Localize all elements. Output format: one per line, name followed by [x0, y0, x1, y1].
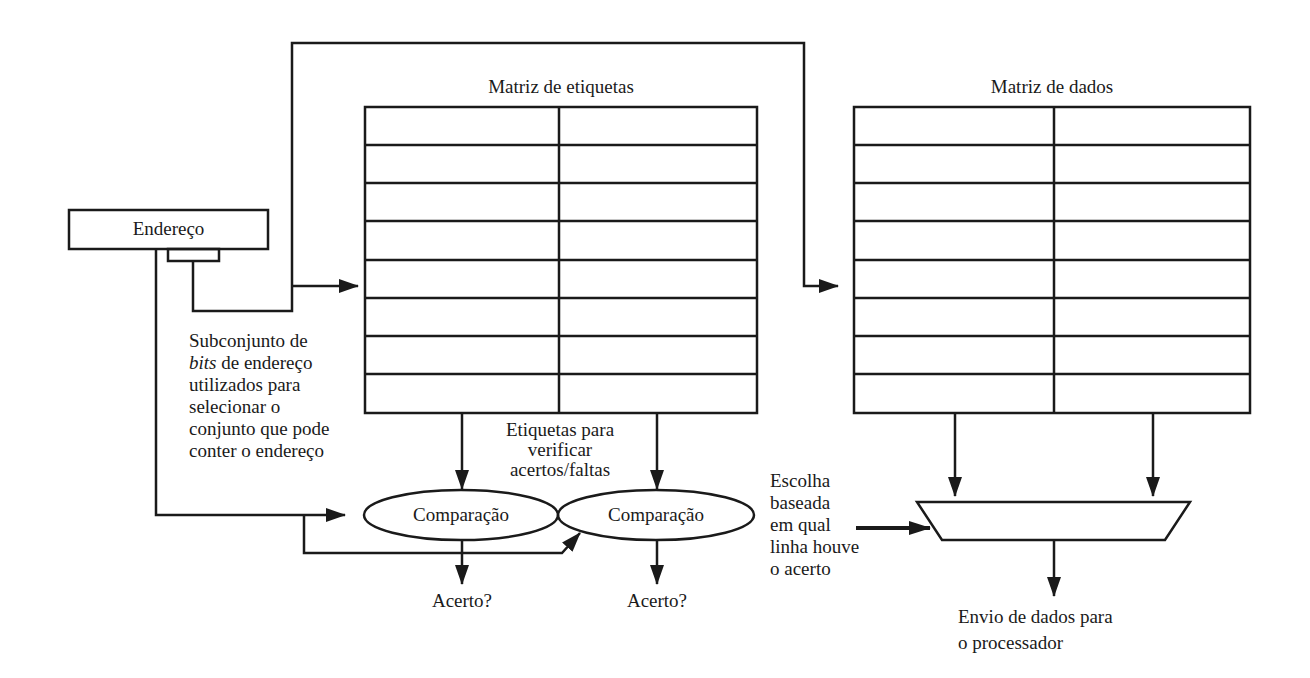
comparator-1-label: Comparação	[558, 504, 754, 526]
data-array	[854, 107, 1250, 413]
subset-note-line: conter o endereço	[189, 440, 329, 462]
mux-note-line: Escolha	[770, 470, 859, 492]
tag-array-title: Matriz de etiquetas	[365, 76, 757, 98]
address-label: Endereço	[69, 218, 268, 240]
comparator-0-label: Comparação	[364, 504, 558, 526]
subset-note-line: bits de endereço	[189, 352, 329, 374]
bits-italic: bits	[189, 352, 216, 373]
tag-array	[365, 107, 757, 413]
tags-note-line: verificar	[480, 440, 640, 460]
multiplexer	[917, 502, 1190, 540]
output-note-line: Envio de dados para	[958, 604, 1113, 630]
index-field-tab	[168, 249, 219, 261]
subset-note: Subconjunto de bits de endereço utilizad…	[189, 330, 329, 462]
hit0-label: Acerto?	[402, 590, 522, 612]
subset-note-line: Subconjunto de	[189, 330, 329, 352]
mux-note-line: em qual	[770, 514, 859, 536]
output-note-line: o processador	[958, 630, 1113, 656]
subset-note-line: utilizados para	[189, 374, 329, 396]
mux-note-line: baseada	[770, 492, 859, 514]
output-note: Envio de dados para o processador	[958, 604, 1113, 656]
tags-note-line: acertos/faltas	[480, 460, 640, 480]
subset-note-line: selecionar o	[189, 396, 329, 418]
subset-note-line: conjunto que pode	[189, 418, 329, 440]
tags-note: Etiquetas para verificar acertos/faltas	[480, 420, 640, 480]
tags-note-line: Etiquetas para	[480, 420, 640, 440]
hit1-label: Acerto?	[597, 590, 717, 612]
subset-note-text: de endereço	[216, 352, 312, 373]
data-array-title: Matriz de dados	[854, 76, 1250, 98]
mux-note: Escolha baseada em qual linha houve o ac…	[770, 470, 859, 580]
mux-note-line: linha houve	[770, 536, 859, 558]
mux-note-line: o acerto	[770, 558, 859, 580]
